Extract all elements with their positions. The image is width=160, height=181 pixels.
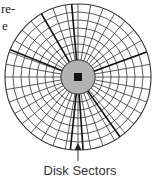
disk-sectors-diagram [0, 0, 160, 181]
arrow-icon [75, 143, 82, 161]
spindle-hole [74, 73, 82, 81]
diagram-label: Disk Sectors [40, 163, 120, 178]
